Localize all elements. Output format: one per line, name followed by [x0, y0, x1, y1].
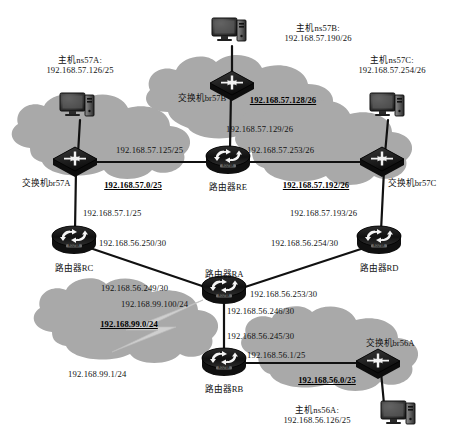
host-label-ns56A: 主机ns56A: 192.168.56.126/25 [283, 405, 350, 425]
svg-text:ROUTER: ROUTER [223, 164, 234, 168]
link-RD-RA [242, 248, 364, 288]
iface-label-99-100: 192.168.99.100/24 [121, 299, 188, 309]
switch-label-br57C: 交换机br57C [388, 176, 436, 188]
iface-label-57-193: 192.168.57.193/26 [290, 208, 357, 218]
subnet-label-net57C: 192.168.57.192/26 [283, 180, 349, 190]
switch-label-br57A: 交换机br57A [22, 176, 71, 188]
iface-label-56-254: 192.168.56.254/30 [271, 238, 338, 248]
link-br57B-RE [230, 92, 231, 150]
router-RE-icon: ROUTER [206, 146, 250, 174]
iface-label-56-246: 192.168.56.246/30 [227, 306, 294, 316]
svg-text:ROUTER: ROUTER [219, 366, 230, 370]
svg-text:ROUTER: ROUTER [374, 244, 385, 248]
host-ns57C-icon [370, 93, 404, 116]
link-RC-RA [90, 248, 208, 288]
iface-label-56-253: 192.168.56.253/30 [250, 289, 317, 299]
host-ns57B-name: 主机ns57B: [284, 23, 351, 33]
iface-label-56-245: 192.168.56.245/30 [227, 331, 294, 341]
network-diagram: ROUTER ROUTER ROUTER [0, 0, 449, 438]
host-label-ns57C: 主机ns57C: 192.168.57.254/26 [358, 55, 425, 75]
svg-text:ROUTER: ROUTER [69, 244, 80, 248]
iface-label-57-1: 192.168.57.1/25 [83, 208, 141, 218]
subnet-label-net57A: 192.168.57.0/25 [104, 180, 162, 190]
iface-label-57-129: 192.168.57.129/26 [226, 124, 293, 134]
subnet-label-net99: 192.168.99.0/24 [100, 319, 158, 329]
router-label-RB: 路由器RB [205, 382, 243, 394]
host-ns57B-ip: 192.168.57.190/26 [284, 33, 351, 43]
svg-text:ROUTER: ROUTER [219, 294, 230, 298]
iface-label-56-250: 192.168.56.250/30 [99, 238, 166, 248]
switch-label-br56A: 交换机br56A [366, 336, 415, 348]
link-br57C-RD [381, 170, 384, 231]
link-br57A-RC [75, 170, 76, 231]
router-label-RE: 路由器RE [209, 180, 247, 192]
subnet-label-net56A: 192.168.56.0/25 [298, 375, 356, 385]
host-ns56A-icon [381, 401, 415, 424]
router-RD-icon: ROUTER [357, 226, 401, 254]
router-RA-icon: ROUTER [202, 276, 246, 304]
router-RC-icon: ROUTER [52, 226, 96, 254]
host-ns57B-icon [212, 18, 246, 41]
iface-label-57-125: 192.168.57.125/25 [116, 145, 183, 155]
host-ns57A-ip: 192.168.57.126/25 [46, 65, 113, 75]
host-ns56A-name: 主机ns56A: [283, 405, 350, 415]
subnet-label-net57B: 192.168.57.128/26 [250, 95, 316, 105]
router-RB-icon: ROUTER [202, 348, 246, 376]
iface-label-56-1: 192.168.56.1/25 [247, 350, 305, 360]
router-label-RA: 路由器RA [205, 267, 244, 279]
router-label-RD: 路由器RD [360, 261, 399, 273]
host-ns57C-name: 主机ns57C: [358, 55, 425, 65]
iface-label-56-249: 192.168.56.249/30 [101, 283, 168, 293]
host-ns57C-ip: 192.168.57.254/26 [358, 65, 425, 75]
host-label-ns57B: 主机ns57B: 192.168.57.190/26 [284, 23, 351, 43]
host-ns56A-ip: 192.168.56.126/25 [283, 415, 350, 425]
iface-label-99-1: 192.168.99.1/24 [68, 369, 126, 379]
host-ns57A-name: 主机ns57A: [46, 55, 113, 65]
host-label-ns57A: 主机ns57A: 192.168.57.126/25 [46, 55, 113, 75]
switch-label-br57B: 交换机br57B [178, 91, 226, 103]
router-label-RC: 路由器RC [55, 261, 93, 273]
iface-label-57-253: 192.168.57.253/26 [247, 145, 314, 155]
